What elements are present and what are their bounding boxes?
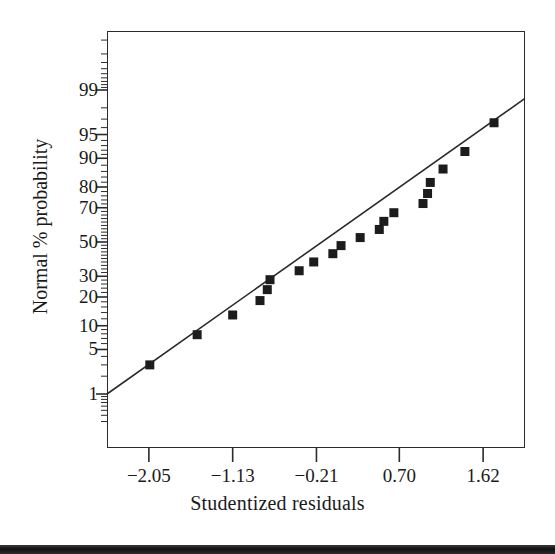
y-tick-label: 99 (79, 80, 98, 99)
x-tick-label: −1.13 (211, 465, 255, 487)
y-tick-label: 20 (79, 287, 98, 306)
y-tick-label: 70 (79, 198, 98, 217)
y-axis-title: Normal % probability (29, 97, 52, 357)
y-tick-label: 5 (89, 339, 99, 358)
y-tick-label: 80 (79, 177, 98, 196)
x-tick-label: −2.05 (127, 465, 171, 487)
y-tick-label: 50 (79, 232, 98, 251)
y-tick-label: 1 (89, 384, 99, 403)
page-edge-strip (0, 545, 555, 554)
x-tick-label: 1.62 (466, 465, 499, 487)
plot-frame (107, 31, 525, 448)
x-tick-label: 0.70 (383, 465, 416, 487)
y-tick-label: 90 (79, 148, 98, 167)
y-tick-label: 95 (79, 125, 98, 144)
y-tick-label: 10 (79, 316, 98, 335)
y-tick-label: 30 (79, 266, 98, 285)
x-axis-tick-labels: −2.05−1.13−0.210.701.62 (0, 465, 555, 493)
x-axis-title: Studentized residuals (0, 492, 555, 515)
normal-probability-plot-figure: 99959080705030201051 −2.05−1.13−0.210.70… (0, 0, 555, 554)
x-axis-ticks (149, 448, 483, 462)
x-tick-label: −0.21 (294, 465, 338, 487)
